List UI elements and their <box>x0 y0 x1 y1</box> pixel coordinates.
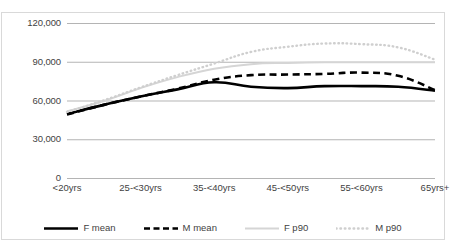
solid-gray-key <box>245 224 279 233</box>
legend-item-m-mean[interactable]: M mean <box>144 223 217 233</box>
y-axis-label-90000: 90,000 <box>0 57 61 67</box>
legend-item-f-mean[interactable]: F mean <box>44 223 115 233</box>
y-axis-label-60000: 60,000 <box>0 96 61 106</box>
legend-label: F p90 <box>284 223 308 233</box>
dashed-black-key <box>144 224 178 233</box>
dotted-gray-key <box>336 224 370 233</box>
legend-item-f-p90[interactable]: F p90 <box>245 223 308 233</box>
legend-label: F mean <box>83 223 115 233</box>
y-axis-label-120000: 120,000 <box>0 18 61 28</box>
x-axis-label-65yrs: 65yrs+ <box>390 182 454 193</box>
legend-item-m-p90[interactable]: M p90 <box>336 223 401 233</box>
series-lines <box>67 43 435 114</box>
legend-label: M p90 <box>375 223 401 233</box>
legend-label: M mean <box>183 223 217 233</box>
series-line-f-mean <box>67 82 435 114</box>
y-axis-label-30000: 30,000 <box>0 134 61 144</box>
chart-legend: F meanM meanF p90M p90 <box>0 219 446 237</box>
solid-black-key <box>44 224 78 233</box>
